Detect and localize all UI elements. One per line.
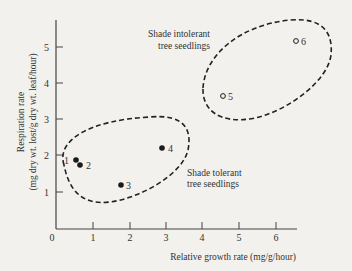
data-point xyxy=(118,182,124,188)
point-label: 5 xyxy=(228,91,233,102)
y-tick-label: 5 xyxy=(44,42,49,53)
point-label: 2 xyxy=(86,160,91,171)
shade-intolerant-enclosure xyxy=(203,20,331,120)
y-ticks: 5 4 3 2 1 xyxy=(44,42,63,198)
annotation-shade-tolerant: tree seedlings xyxy=(187,179,239,189)
x-tick-label: 0 xyxy=(50,232,55,243)
scatter-chart: 5 4 3 2 1 0 1 2 3 4 5 6 Relative growth … xyxy=(0,0,352,271)
data-point xyxy=(77,162,83,168)
annotation-shade-intolerant: Shade intolerant xyxy=(148,29,210,39)
y-tick-label: 2 xyxy=(44,150,49,161)
point-label: 3 xyxy=(126,180,131,191)
data-point xyxy=(159,145,165,151)
y-axis-title: Respiration rate xyxy=(16,92,26,152)
x-ticks: 0 1 2 3 4 5 6 xyxy=(50,222,279,243)
x-tick-label: 3 xyxy=(164,232,169,243)
data-point xyxy=(294,39,299,44)
annotation-shade-intolerant: tree seedlings xyxy=(158,41,210,51)
annotation-shade-tolerant: Shade tolerant xyxy=(187,168,242,178)
series-shade-intolerant: 5 6 xyxy=(221,36,306,102)
y-axis-subtitle: (mg dry wt. lost/g dry wt. leaf/hour) xyxy=(28,53,39,190)
y-tick-label: 4 xyxy=(44,78,49,89)
data-point xyxy=(221,94,226,99)
point-label: 4 xyxy=(168,143,173,154)
y-tick-label: 1 xyxy=(44,187,49,198)
x-tick-label: 1 xyxy=(91,232,96,243)
x-tick-label: 4 xyxy=(200,232,205,243)
x-tick-label: 2 xyxy=(128,232,133,243)
x-axis-title: Relative growth rate (mg/g/hour) xyxy=(170,252,296,263)
point-label: 6 xyxy=(301,36,306,47)
data-point xyxy=(73,157,79,163)
x-tick-label: 6 xyxy=(274,232,279,243)
y-tick-label: 3 xyxy=(44,114,49,125)
point-label: 1 xyxy=(64,155,69,166)
x-tick-label: 5 xyxy=(237,232,242,243)
